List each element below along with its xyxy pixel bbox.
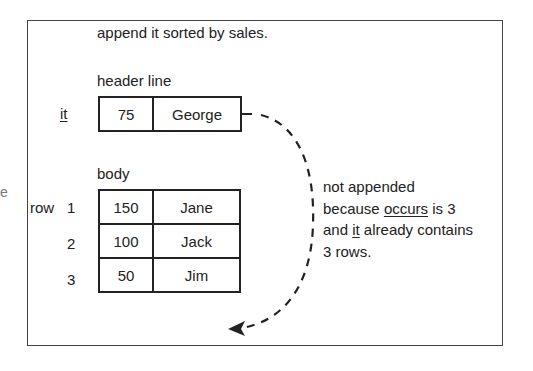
arrowhead-icon <box>228 321 245 336</box>
dashed-curve <box>234 115 313 329</box>
dashed-arrow <box>0 0 533 371</box>
